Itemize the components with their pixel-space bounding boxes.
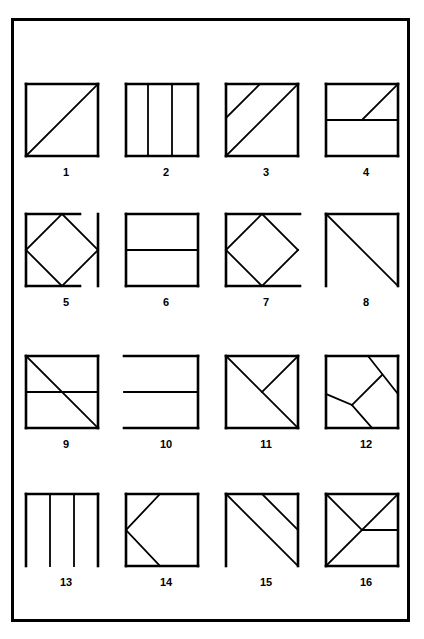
figure-sheet-page: 12345678910111213141516 — [0, 0, 424, 639]
figure-14-square-with-left-chevron: 14 — [116, 488, 216, 598]
figure-2-square-three-vertical-strips: 2 — [116, 78, 216, 188]
figure-12-square-with-zigzag-chords: 12 — [316, 350, 416, 460]
figure-drawing-9 — [16, 350, 116, 436]
figure-label-11: 11 — [216, 438, 316, 450]
figure-label-9: 9 — [16, 438, 116, 450]
figure-drawing-2 — [116, 78, 216, 164]
figure-drawing-4 — [316, 78, 416, 164]
figure-8-open-square-with-antidiagonal: 8 — [316, 208, 416, 318]
figure-drawing-11 — [216, 350, 316, 436]
figure-1-square-with-diagonal: 1 — [16, 78, 116, 188]
figure-drawing-3 — [216, 78, 316, 164]
figure-label-1: 1 — [16, 166, 116, 178]
figure-grid: 12345678910111213141516 — [0, 0, 424, 639]
figure-label-13: 13 — [16, 576, 116, 588]
figure-9-square-midline-and-antidiagonal: 9 — [16, 350, 116, 460]
figure-label-14: 14 — [116, 576, 216, 588]
figure-5-inscribed-diamond-detached-right-edge: 5 — [16, 208, 116, 318]
figure-drawing-14 — [116, 488, 216, 574]
figure-10-open-left-square-with-midline: 10 — [116, 350, 216, 460]
figure-16-square-diagonal-halfdiagonal-and-half-midline: 16 — [316, 488, 416, 598]
figure-label-16: 16 — [316, 576, 416, 588]
figure-drawing-5 — [16, 208, 116, 294]
figure-label-4: 4 — [316, 166, 416, 178]
figure-label-3: 3 — [216, 166, 316, 178]
figure-drawing-7 — [216, 208, 316, 294]
figure-3-square-diagonal-plus-parallel: 3 — [216, 78, 316, 188]
figure-6-square-with-horizontal-midline: 6 — [116, 208, 216, 318]
figure-drawing-10 — [116, 350, 216, 436]
figure-label-2: 2 — [116, 166, 216, 178]
figure-drawing-15 — [216, 488, 316, 574]
figure-label-5: 5 — [16, 296, 116, 308]
figure-13-open-bottom-square-with-verticals: 13 — [16, 488, 116, 598]
figure-label-8: 8 — [316, 296, 416, 308]
figure-drawing-1 — [16, 78, 116, 164]
figure-11-square-antidiagonal-and-half-diagonal: 11 — [216, 350, 316, 460]
figure-drawing-6 — [116, 208, 216, 294]
figure-label-12: 12 — [316, 438, 416, 450]
figure-drawing-13 — [16, 488, 116, 574]
figure-drawing-12 — [316, 350, 416, 436]
figure-label-15: 15 — [216, 576, 316, 588]
figure-label-7: 7 — [216, 296, 316, 308]
figure-label-6: 6 — [116, 296, 216, 308]
figure-4-square-midline-and-corner-diagonal: 4 — [316, 78, 416, 188]
figure-drawing-8 — [316, 208, 416, 294]
figure-drawing-16 — [316, 488, 416, 574]
figure-15-open-bottom-square-antidiagonal-plus-parallel: 15 — [216, 488, 316, 598]
figure-7-inscribed-diamond-missing-right-edge: 7 — [216, 208, 316, 318]
figure-label-10: 10 — [116, 438, 216, 450]
